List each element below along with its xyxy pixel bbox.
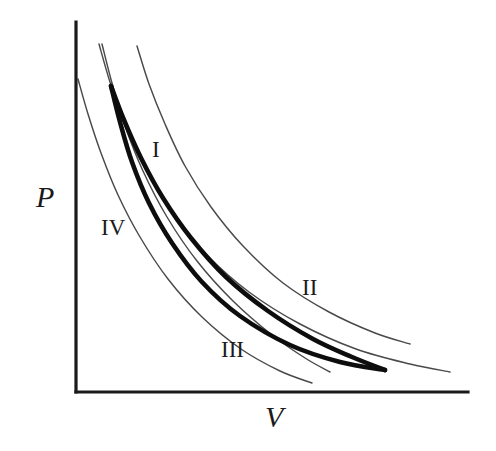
curve-thick-upper-process <box>111 86 385 370</box>
y-axis-label: P <box>36 182 54 212</box>
curve-label-iv: IV <box>101 216 125 239</box>
pv-diagram-canvas <box>0 0 496 451</box>
curve-label-iii: III <box>221 338 244 361</box>
x-axis-label: V <box>265 402 283 432</box>
curve-curve-I <box>137 46 410 344</box>
curve-thick-lower-process <box>111 86 385 370</box>
curve-curve-III <box>102 44 330 372</box>
curve-label-i: I <box>152 138 160 161</box>
curve-label-ii: II <box>302 276 317 299</box>
curves-layer <box>78 44 450 383</box>
pv-diagram-figure: P V I II III IV <box>0 0 496 451</box>
